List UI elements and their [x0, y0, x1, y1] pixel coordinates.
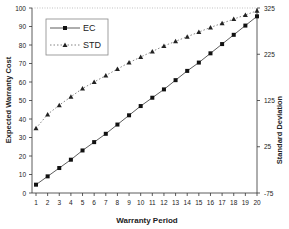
y2-tick-label: 325 [264, 5, 275, 12]
std-marker [45, 112, 50, 117]
ec-marker [139, 104, 143, 108]
x-tick-label: 16 [207, 199, 215, 206]
std-marker [255, 8, 260, 13]
x-tick-label: 20 [253, 199, 261, 206]
ec-marker [255, 14, 259, 18]
y2-tick-label: -75 [264, 190, 274, 197]
x-tick-label: 17 [218, 199, 226, 206]
ec-marker [150, 96, 154, 100]
ec-marker [104, 132, 108, 136]
x-tick-label: 7 [104, 199, 108, 206]
y-tick-label: 70 [19, 60, 27, 67]
std-marker [115, 67, 120, 72]
ec-marker [197, 61, 201, 65]
ec-marker [208, 51, 212, 55]
y2-tick-label: 25 [264, 143, 272, 150]
ec-marker [92, 140, 96, 144]
ec-marker [115, 123, 119, 127]
ec-marker [81, 148, 85, 152]
ec-marker [69, 158, 73, 162]
y-tick-label: 80 [19, 42, 27, 49]
x-tick-label: 10 [137, 199, 145, 206]
ec-marker [243, 24, 247, 28]
ec-marker [34, 183, 38, 187]
y-axis-title: Expected Warranty Cost [4, 56, 13, 143]
std-marker [173, 39, 178, 44]
std-marker [80, 86, 85, 91]
y-tick-label: 40 [19, 116, 27, 123]
x-tick-label: 9 [127, 199, 131, 206]
ec-marker [162, 87, 166, 91]
y2-tick-label: 125 [264, 97, 275, 104]
warranty-chart: 0102030405060708090100-75251252253251234… [0, 0, 289, 229]
y-tick-label: 20 [19, 153, 27, 160]
std-marker [208, 25, 213, 30]
x-tick-label: 6 [92, 199, 96, 206]
x-tick-label: 4 [69, 199, 73, 206]
ec-marker [127, 113, 131, 117]
std-marker [161, 43, 166, 48]
legend-ec-label: EC [83, 23, 96, 33]
std-marker [185, 34, 190, 39]
std-marker [57, 103, 62, 108]
ec-marker [174, 78, 178, 82]
x-tick-label: 1 [34, 199, 38, 206]
y-tick-label: 0 [22, 190, 26, 197]
x-tick-label: 12 [160, 199, 168, 206]
ec-marker [46, 174, 50, 178]
std-marker [68, 94, 73, 99]
x-tick-label: 13 [172, 199, 180, 206]
legend-std-label: STD [83, 40, 102, 50]
ec-marker [57, 166, 61, 170]
std-marker [231, 17, 236, 22]
ec-marker [185, 69, 189, 73]
y2-tick-label: 225 [264, 51, 275, 58]
x-tick-label: 2 [46, 199, 50, 206]
y-tick-label: 100 [15, 5, 26, 12]
y-tick-label: 50 [19, 97, 27, 104]
std-marker [92, 80, 97, 85]
y-tick-label: 60 [19, 79, 27, 86]
x-tick-label: 15 [195, 199, 203, 206]
x-tick-label: 5 [81, 199, 85, 206]
y-tick-label: 90 [19, 23, 27, 30]
std-marker [34, 126, 39, 131]
std-marker [138, 55, 143, 60]
y-tick-label: 30 [19, 134, 27, 141]
y-tick-label: 10 [19, 171, 27, 178]
legend: EC STD [46, 19, 108, 55]
x-tick-label: 19 [242, 199, 250, 206]
x-tick-label: 18 [230, 199, 238, 206]
x-axis-title: Warranty Period [116, 216, 178, 225]
x-tick-label: 11 [149, 199, 156, 206]
ec-marker [232, 33, 236, 37]
std-marker [150, 49, 155, 54]
x-tick-label: 3 [57, 199, 61, 206]
y2-axis-title: Standard Deviation [275, 95, 284, 164]
std-marker [196, 30, 201, 35]
ec-marker [220, 42, 224, 46]
x-tick-label: 8 [116, 199, 120, 206]
std-marker [127, 60, 132, 64]
x-tick-label: 14 [184, 199, 192, 206]
std-marker [103, 73, 108, 78]
